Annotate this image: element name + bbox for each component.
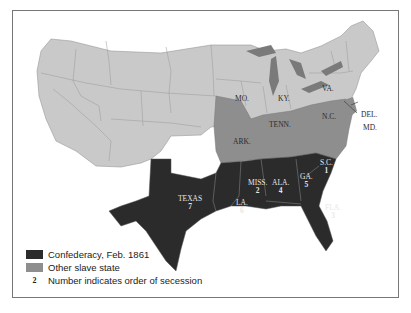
label-va: VA. [322, 85, 334, 93]
legend-item-confederacy: Confederacy, Feb. 1861 [26, 248, 202, 261]
legend-label: Number indicates order of secession [48, 275, 202, 286]
label-ala: ALA.4 [272, 179, 289, 195]
legend-label: Other slave state [48, 262, 120, 273]
legend-item-other-slave-state: Other slave state [26, 261, 202, 274]
label-ky: KY. [278, 95, 290, 103]
label-la: LA.6 [236, 199, 248, 215]
other-slave-state-swatch [26, 263, 43, 272]
label-miss: MISS.2 [248, 179, 267, 195]
label-md: MD. [363, 124, 377, 132]
label-del: DEL. [361, 111, 377, 119]
legend: Confederacy, Feb. 1861 Other slave state… [26, 248, 202, 287]
label-tenn: TENN. [269, 121, 291, 129]
label-texas: TEXAS7 [178, 195, 202, 211]
label-mo: MO. [235, 95, 249, 103]
secession-number-symbol: 2 [26, 276, 43, 285]
label-sc: S.C.1 [320, 159, 333, 175]
label-fla: FLA.3 [325, 204, 341, 220]
legend-label: Confederacy, Feb. 1861 [48, 249, 149, 260]
label-ark: ARK. [233, 138, 251, 146]
label-ga: GA.5 [300, 173, 313, 189]
label-nc: N.C. [322, 113, 336, 121]
legend-item-secession-order: 2 Number indicates order of secession [26, 274, 202, 287]
confederacy-swatch [26, 250, 43, 259]
